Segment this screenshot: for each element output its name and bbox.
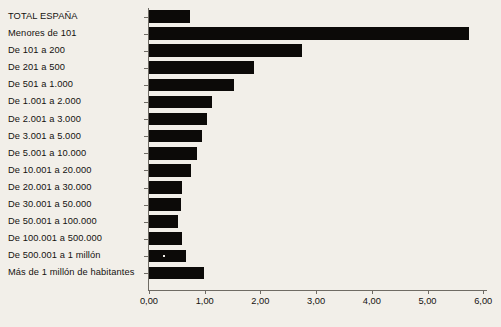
chart-rows: TOTAL ESPAÑA Menores de 101 De 101 a 200… bbox=[0, 8, 501, 282]
x-axis-line bbox=[148, 290, 487, 291]
category-label: De 201 a 500 bbox=[8, 59, 65, 76]
chart-row: Más de 1 millón de habitantes bbox=[0, 264, 501, 281]
x-axis-tick bbox=[483, 290, 484, 294]
y-axis-line bbox=[148, 8, 149, 290]
bar bbox=[149, 181, 182, 194]
bar bbox=[149, 215, 178, 228]
y-axis-tick bbox=[144, 85, 148, 86]
chart-row: De 30.001 a 50.000 bbox=[0, 196, 501, 213]
bar-track bbox=[149, 179, 501, 196]
y-axis-tick bbox=[144, 153, 148, 154]
y-axis-tick bbox=[144, 34, 148, 35]
category-label: De 100.001 a 500.000 bbox=[8, 230, 102, 247]
bar-chart: TOTAL ESPAÑA Menores de 101 De 101 a 200… bbox=[0, 0, 501, 327]
category-label: De 1.001 a 2.000 bbox=[8, 93, 81, 110]
x-axis-tick bbox=[260, 290, 261, 294]
category-label: De 2.001 a 3.000 bbox=[8, 111, 81, 128]
bar bbox=[149, 96, 212, 109]
bar bbox=[149, 27, 469, 40]
bar bbox=[149, 79, 234, 92]
bar-track bbox=[149, 230, 501, 247]
bar bbox=[149, 130, 202, 143]
bar-track bbox=[149, 76, 501, 93]
chart-row: Menores de 101 bbox=[0, 25, 501, 42]
x-axis-tick-label: 0,00 bbox=[140, 296, 158, 306]
bar bbox=[149, 44, 302, 57]
chart-row: De 1.001 a 2.000 bbox=[0, 93, 501, 110]
category-label: De 3.001 a 5.000 bbox=[8, 128, 81, 145]
y-axis-tick bbox=[144, 222, 148, 223]
category-label: TOTAL ESPAÑA bbox=[8, 8, 78, 25]
chart-row: De 100.001 a 500.000 bbox=[0, 230, 501, 247]
x-axis-tick-label: 4,00 bbox=[363, 296, 381, 306]
category-label: De 5.001 a 10.000 bbox=[8, 145, 86, 162]
category-label: De 101 a 200 bbox=[8, 42, 65, 59]
y-axis-tick bbox=[144, 256, 148, 257]
y-axis-tick bbox=[144, 239, 148, 240]
chart-row: De 3.001 a 5.000 bbox=[0, 128, 501, 145]
chart-row: De 2.001 a 3.000 bbox=[0, 111, 501, 128]
bar bbox=[149, 113, 207, 126]
y-axis-tick bbox=[144, 119, 148, 120]
bar bbox=[149, 61, 254, 74]
bar bbox=[149, 250, 186, 263]
y-axis-tick bbox=[144, 205, 148, 206]
category-label: De 10.001 a 20.000 bbox=[8, 162, 91, 179]
bar-track bbox=[149, 128, 501, 145]
bar bbox=[149, 267, 204, 280]
bar bbox=[149, 164, 191, 177]
category-label: Menores de 101 bbox=[8, 25, 77, 42]
x-axis-tick bbox=[316, 290, 317, 294]
chart-row: De 201 a 500 bbox=[0, 59, 501, 76]
bar-track bbox=[149, 196, 501, 213]
x-axis-tick-label: 5,00 bbox=[418, 296, 436, 306]
category-label: De 30.001 a 50.000 bbox=[8, 196, 91, 213]
bar-track bbox=[149, 42, 501, 59]
bar-track bbox=[149, 93, 501, 110]
x-axis-tick bbox=[428, 290, 429, 294]
bar-track bbox=[149, 145, 501, 162]
category-label: De 501 a 1.000 bbox=[8, 76, 73, 93]
chart-row: De 50.001 a 100.000 bbox=[0, 213, 501, 230]
y-axis-tick bbox=[144, 102, 148, 103]
chart-row: De 10.001 a 20.000 bbox=[0, 162, 501, 179]
bar-track bbox=[149, 247, 501, 264]
bar bbox=[149, 10, 190, 23]
bar-track bbox=[149, 59, 501, 76]
x-axis-tick bbox=[149, 290, 150, 294]
y-axis-tick bbox=[144, 51, 148, 52]
chart-row: De 500.001 a 1 millón bbox=[0, 247, 501, 264]
category-label: De 50.001 a 100.000 bbox=[8, 213, 97, 230]
category-label: De 20.001 a 30.000 bbox=[8, 179, 91, 196]
category-label: Más de 1 millón de habitantes bbox=[8, 264, 134, 281]
category-label: De 500.001 a 1 millón bbox=[8, 247, 101, 264]
y-axis-tick bbox=[144, 17, 148, 18]
chart-row: De 5.001 a 10.000 bbox=[0, 145, 501, 162]
x-axis-tick-label: 1,00 bbox=[196, 296, 214, 306]
x-axis-tick-label: 2,00 bbox=[251, 296, 269, 306]
bar-track bbox=[149, 213, 501, 230]
y-axis-tick bbox=[144, 136, 148, 137]
bar-track bbox=[149, 264, 501, 281]
bar-track bbox=[149, 25, 501, 42]
y-axis-tick bbox=[144, 273, 148, 274]
y-axis-tick bbox=[144, 170, 148, 171]
chart-row: De 101 a 200 bbox=[0, 42, 501, 59]
bar bbox=[149, 147, 197, 160]
bar-track bbox=[149, 111, 501, 128]
y-axis-tick bbox=[144, 188, 148, 189]
x-axis-tick bbox=[372, 290, 373, 294]
chart-row: De 20.001 a 30.000 bbox=[0, 179, 501, 196]
bar-track bbox=[149, 8, 501, 25]
x-axis-tick-label: 6,00 bbox=[474, 296, 492, 306]
y-axis-tick bbox=[144, 68, 148, 69]
bar bbox=[149, 232, 182, 245]
chart-row: TOTAL ESPAÑA bbox=[0, 8, 501, 25]
x-axis-tick bbox=[205, 290, 206, 294]
bar bbox=[149, 198, 181, 211]
chart-row: De 501 a 1.000 bbox=[0, 76, 501, 93]
x-axis-tick-label: 3,00 bbox=[307, 296, 325, 306]
bar-track bbox=[149, 162, 501, 179]
